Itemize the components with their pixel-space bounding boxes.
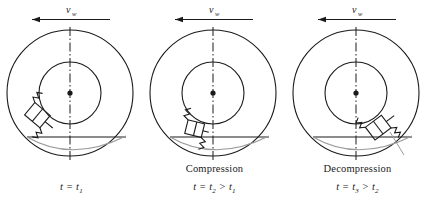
panel-1-diagram: v w [0, 0, 143, 163]
velocity-arrow-1 [32, 17, 110, 22]
panel-2-time-caption: t = t2 > t1 [143, 181, 286, 195]
velocity-label-1: v [66, 4, 71, 15]
deformed-contact-curve-1 [27, 136, 126, 150]
panel-2-time-text: t = t [193, 181, 212, 192]
panel-2-state-caption: Compression [143, 163, 286, 174]
panel-2-time-rest: > t [216, 181, 232, 192]
panel-time-3: v w Decompression t = t3 > t2 [286, 0, 429, 216]
panel-time-1: v w [0, 0, 143, 216]
velocity-label-sub-1: w [72, 10, 77, 17]
panel-3-diagram: v w [286, 0, 429, 163]
panel-1-time-caption: t = t1 [0, 181, 143, 195]
spring-damper-element-3 [354, 100, 406, 153]
panel-2-diagram: v w [143, 0, 286, 163]
tire-rotation-figure: v w [0, 0, 429, 216]
panel-3-time-caption: t = t3 > t2 [286, 181, 429, 195]
spring-damper-element-2 [177, 107, 213, 151]
velocity-label-3: v [352, 4, 357, 15]
panel-3-state-caption: Decompression [286, 163, 429, 174]
panel-2-time-rest-sub: 1 [232, 187, 236, 195]
panel-1-time-sub: 1 [79, 187, 83, 195]
panel-1-time-text: t = t [60, 181, 79, 192]
velocity-label-2: v [209, 4, 214, 15]
panel-3-time-text: t = t [336, 181, 355, 192]
velocity-arrow-2 [175, 17, 253, 22]
deformed-contact-curve-2 [170, 136, 269, 150]
hub-center-dot-2 [210, 90, 215, 95]
panel-3-time-rest: > t [359, 181, 375, 192]
panel-time-2: v w Compression t = t2 > t1 [143, 0, 286, 216]
panel-3-time-rest-sub: 2 [375, 187, 379, 195]
velocity-arrow-3 [318, 17, 396, 22]
hub-center-dot-3 [353, 90, 358, 95]
spring-damper-element-1 [13, 90, 66, 143]
velocity-label-sub-2: w [215, 10, 220, 17]
hub-center-dot-1 [67, 90, 72, 95]
velocity-label-sub-3: w [358, 10, 363, 17]
